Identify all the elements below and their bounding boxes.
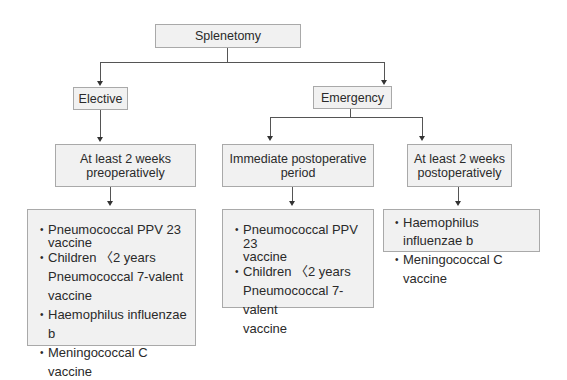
connector (227, 48, 228, 62)
arrow-down-icon (107, 201, 113, 206)
node-label-line: Immediate postoperative (230, 152, 367, 166)
connector (270, 117, 423, 118)
vaccine-item: Children 〈2 years (40, 249, 195, 267)
vaccine-item: Meningococcal C vaccine (40, 343, 195, 380)
node-emergency: Emergency (313, 86, 392, 109)
node-timing-emergency-immediate: Immediate postoperative period (222, 144, 374, 187)
connector (384, 62, 385, 81)
vaccine-list: Pneumococcal PPV 23 vaccine Children 〈2 … (235, 223, 373, 338)
connector (270, 117, 271, 137)
vaccine-item: Children 〈2 years (235, 263, 373, 281)
node-label: Splenetomy (195, 29, 261, 43)
vaccine-item: Meningococcal C vaccine (395, 250, 539, 288)
node-splenetomy: Splenetomy (155, 24, 301, 48)
vaccine-list-emergency-postop: Haemophilus influenzae b Meningococcal C… (383, 209, 540, 252)
vaccine-item-continuation: vaccine (40, 237, 195, 249)
vaccine-item: Haemophilus influenzae b (40, 305, 195, 343)
arrow-down-icon (289, 201, 295, 206)
vaccine-item: Pneumococcal PPV 23 (235, 223, 373, 251)
arrow-down-icon (455, 201, 461, 206)
connector (350, 109, 351, 117)
node-label-line: At least 2 weeks (80, 152, 171, 166)
vaccine-list-emergency-immediate: Pneumococcal PPV 23 vaccine Children 〈2 … (222, 209, 374, 308)
node-elective: Elective (73, 87, 128, 110)
vaccine-item-continuation: Pneumococcal 7-valent (40, 267, 195, 286)
vaccine-list: Haemophilus influenzae b Meningococcal C… (395, 214, 539, 288)
vaccine-list: Pneumococcal PPV 23 vaccine Children 〈2 … (40, 223, 195, 380)
node-timing-emergency-postop: At least 2 weeks postoperatively (407, 144, 512, 187)
connector (100, 110, 101, 138)
node-label-line: preoperatively (86, 166, 165, 180)
connector (422, 117, 423, 137)
connector (110, 187, 111, 202)
vaccine-item-continuation: vaccine (40, 286, 195, 305)
vaccine-item-continuation: vaccine (235, 319, 373, 338)
vaccine-item: Haemophilus influenzae b (395, 214, 539, 250)
arrow-down-icon (381, 80, 387, 85)
arrow-down-icon (97, 81, 103, 86)
node-label-line: At least 2 weeks (414, 152, 505, 166)
vaccine-item-continuation: Pneumococcal 7-valent (235, 281, 373, 319)
arrow-down-icon (267, 136, 273, 141)
connector (458, 187, 459, 202)
connector (100, 62, 101, 82)
node-label: Emergency (321, 91, 384, 105)
connector (100, 62, 385, 63)
connector (292, 187, 293, 202)
arrow-down-icon (97, 137, 103, 142)
node-label: Elective (79, 92, 123, 106)
node-label-line: postoperatively (417, 166, 501, 180)
arrow-down-icon (419, 136, 425, 141)
vaccine-item-continuation: vaccine (235, 251, 373, 263)
vaccine-list-elective: Pneumococcal PPV 23 vaccine Children 〈2 … (27, 209, 196, 346)
node-timing-elective-preop: At least 2 weeks preoperatively (55, 144, 196, 187)
node-label-line: period (281, 166, 316, 180)
